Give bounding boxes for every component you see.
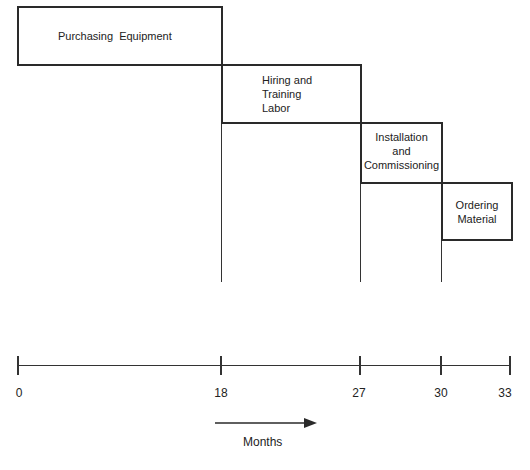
task-label-installation-line3: Commissioning: [360, 159, 443, 172]
arrow-right-icon: [212, 416, 320, 430]
axis-label-30: 30: [434, 386, 447, 400]
task-label-purchasing-equipment: Purchasing Equipment: [58, 30, 172, 43]
task-label-hiring-line1: Hiring and: [262, 74, 312, 87]
task-label-hiring-line2: Training: [262, 88, 301, 101]
axis-label-33: 33: [498, 386, 511, 400]
milestone-line-30: [441, 241, 442, 282]
task-label-installation-line2: and: [360, 145, 443, 158]
axis-unit-label: Months: [243, 436, 282, 449]
axis-label-18: 18: [214, 386, 227, 400]
axis-tick-18: [220, 356, 222, 375]
gantt-diagram: Purchasing Equipment Hiring and Training…: [0, 0, 530, 470]
axis-tick-30: [440, 356, 442, 375]
milestone-line-27: [360, 184, 361, 282]
axis-tick-33: [509, 356, 511, 375]
task-label-installation-line1: Installation: [360, 131, 443, 144]
task-label-hiring-line3: Labor: [262, 102, 290, 115]
task-label-ordering-line1: Ordering: [441, 199, 513, 212]
axis-tick-27: [359, 356, 361, 375]
axis-label-0: 0: [16, 386, 23, 400]
time-axis: [18, 365, 511, 366]
axis-tick-0: [17, 356, 19, 375]
milestone-line-18: [221, 124, 222, 282]
axis-label-27: 27: [352, 386, 365, 400]
task-label-ordering-line2: Material: [441, 213, 513, 226]
